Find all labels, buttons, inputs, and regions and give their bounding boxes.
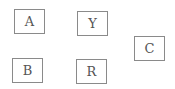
node-r: R (76, 59, 107, 84)
node-a: A (14, 9, 45, 34)
node-b-label: B (23, 64, 33, 77)
node-y-label: Y (88, 17, 97, 30)
node-a-label: A (25, 15, 34, 28)
node-c-label: C (145, 42, 155, 55)
node-b: B (12, 58, 43, 83)
diagram-canvas: A Y C B R (0, 0, 175, 89)
node-c: C (134, 36, 165, 61)
node-r-label: R (87, 65, 97, 78)
node-y: Y (77, 11, 108, 36)
